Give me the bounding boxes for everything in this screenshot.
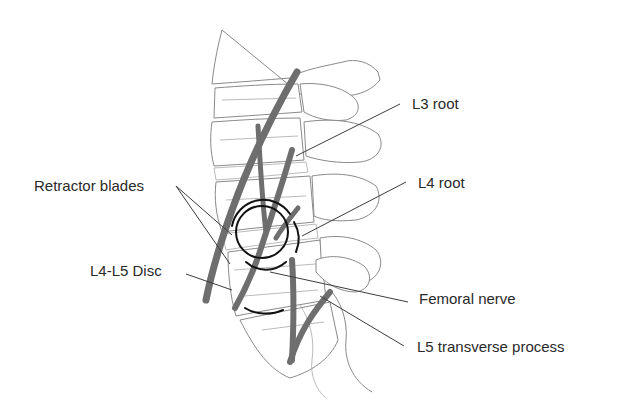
label-l5-transverse-process: L5 transverse process <box>417 339 565 354</box>
posterior-element-l3 <box>304 120 381 162</box>
vertebra-body-l5 <box>228 240 326 316</box>
label-l4-root: L4 root <box>418 175 465 190</box>
label-l3-root: L3 root <box>412 96 459 111</box>
label-retractor-blades: Retractor blades <box>34 178 144 193</box>
label-l4-l5-disc: L4-L5 Disc <box>90 263 162 278</box>
sacrum <box>240 302 338 378</box>
label-femoral-nerve: Femoral nerve <box>419 291 516 306</box>
